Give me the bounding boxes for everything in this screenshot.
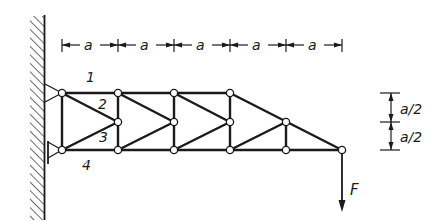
vertical-dimension — [380, 93, 400, 150]
truss-diagram: 1 2 3 4 a a a a a a/2 a/2 — [0, 0, 447, 221]
node — [282, 118, 289, 125]
node — [58, 146, 65, 153]
node — [170, 146, 177, 153]
member-label-1: 1 — [86, 69, 95, 85]
dimension-label-a-half: a/2 — [400, 101, 422, 117]
arrow-down-icon — [339, 200, 346, 212]
diagonal-member — [230, 122, 286, 150]
member-label-3: 3 — [99, 129, 108, 145]
member-label-4: 4 — [82, 157, 91, 173]
node — [58, 89, 65, 96]
member-label-2: 2 — [98, 96, 107, 112]
node — [114, 89, 121, 96]
diagonal-member — [174, 93, 230, 122]
dimension-label-a: a — [252, 37, 261, 53]
load-label-f: F — [350, 181, 359, 199]
dimension-label-a: a — [308, 37, 317, 53]
dimension-label-a: a — [140, 37, 149, 53]
diagonal-member — [118, 93, 174, 122]
diagonal-member — [174, 122, 230, 150]
node — [338, 146, 345, 153]
dimension-label-a: a — [84, 37, 93, 53]
node — [114, 118, 121, 125]
dimension-label-a: a — [196, 37, 205, 53]
diagonal-member — [118, 122, 174, 150]
wall-hatching — [30, 16, 44, 220]
node — [282, 146, 289, 153]
wall-support — [30, 15, 45, 220]
node — [226, 89, 233, 96]
node — [114, 146, 121, 153]
diagonal-member-3 — [62, 122, 118, 150]
node — [170, 118, 177, 125]
diagonal-member-2 — [62, 93, 118, 122]
load-arrow — [339, 154, 346, 212]
dimension-label-a-half: a/2 — [400, 129, 422, 145]
node — [226, 146, 233, 153]
node — [170, 89, 177, 96]
node — [226, 118, 233, 125]
